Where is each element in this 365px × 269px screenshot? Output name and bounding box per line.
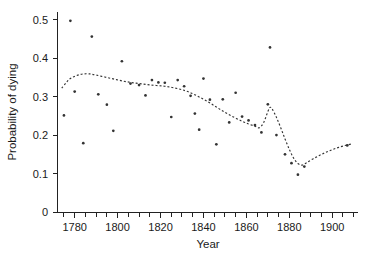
data-point [247, 119, 250, 122]
y-axis-tick-labels: 00.10.20.30.40.5 [33, 14, 48, 218]
y-axis: 00.10.20.30.40.5 [33, 12, 58, 218]
data-point [97, 93, 100, 96]
data-point [194, 112, 197, 115]
data-point [183, 85, 186, 88]
x-tick-label: 1780 [62, 221, 86, 233]
y-tick-label: 0 [42, 206, 48, 218]
data-point [267, 103, 270, 106]
data-point [241, 115, 244, 118]
data-point [121, 60, 124, 63]
data-point [234, 91, 237, 94]
y-axis-title: Probability of dying [6, 63, 18, 160]
data-point [275, 134, 278, 137]
x-tick-label: 1840 [191, 221, 215, 233]
x-tick-label: 1860 [234, 221, 258, 233]
data-point [269, 46, 272, 49]
data-point [82, 142, 85, 145]
data-point [106, 103, 109, 106]
y-tick-label: 0.2 [33, 129, 48, 141]
y-axis-tick-group [53, 20, 58, 212]
data-point [90, 35, 93, 38]
y-tick-label: 0.1 [33, 168, 48, 180]
data-point [144, 94, 147, 97]
x-axis-major-tick-group [75, 213, 333, 219]
data-point [260, 131, 263, 134]
x-tick-label: 1900 [320, 221, 344, 233]
x-axis-minor-tick-group [64, 213, 354, 218]
probability-of-dying-scatter-chart: 00.10.20.30.40.5 17801800182018401860188… [0, 0, 365, 269]
data-point-series [63, 20, 349, 177]
data-point [209, 98, 212, 101]
chart-container: 00.10.20.30.40.5 17801800182018401860188… [0, 0, 365, 269]
data-point [69, 20, 72, 23]
data-point [198, 128, 201, 131]
data-point [303, 165, 306, 168]
x-axis-title: Year [196, 238, 219, 250]
loess-smooth-curve [62, 74, 352, 165]
data-point [151, 79, 154, 82]
x-tick-label: 1800 [105, 221, 129, 233]
data-point [176, 79, 179, 82]
y-tick-label: 0.3 [33, 91, 48, 103]
data-point [284, 153, 287, 156]
x-axis: 1780180018201840186018801900 [58, 213, 359, 234]
x-axis-tick-labels: 1780180018201840186018801900 [62, 221, 344, 233]
y-tick-label: 0.4 [33, 52, 48, 64]
data-point [63, 114, 66, 117]
y-tick-label: 0.5 [33, 14, 48, 26]
data-point [290, 162, 293, 165]
data-point [73, 90, 76, 93]
data-point [202, 77, 205, 80]
data-point [112, 130, 115, 133]
data-point [228, 121, 231, 124]
x-tick-label: 1820 [148, 221, 172, 233]
data-point [221, 98, 224, 101]
x-tick-label: 1880 [277, 221, 301, 233]
data-point [189, 95, 192, 98]
data-point [157, 81, 160, 84]
data-point [163, 81, 166, 84]
data-point [297, 173, 300, 176]
data-point [170, 116, 173, 119]
data-point [215, 143, 218, 146]
